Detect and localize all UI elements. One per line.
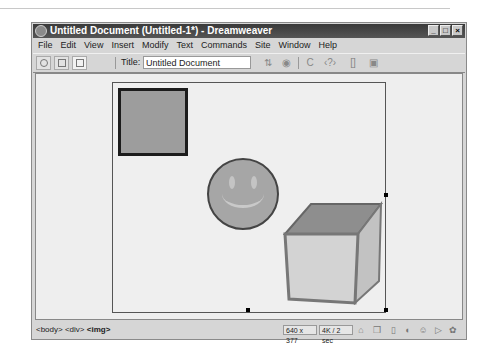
square-image[interactable] — [118, 88, 188, 156]
history-icon[interactable]: ▷ — [433, 325, 443, 335]
menu-edit[interactable]: Edit — [57, 39, 81, 52]
menu-help[interactable]: Help — [314, 39, 341, 52]
document-toolbar: Title: ⇅ ◉ C ‹?› [] ▣ — [33, 53, 465, 73]
view-options-icon[interactable]: ▣ — [366, 57, 380, 69]
assets-icon[interactable]: ❒ — [372, 325, 382, 335]
page-divider — [0, 8, 450, 9]
html-styles-icon[interactable]: ▯ — [388, 325, 398, 335]
split-view-button[interactable] — [54, 56, 69, 70]
resize-handle-corner[interactable] — [384, 308, 388, 312]
resize-handle-bottom[interactable] — [246, 308, 250, 312]
menu-commands[interactable]: Commands — [197, 39, 251, 52]
toolbar-separator — [115, 57, 116, 69]
code-view-icon — [40, 59, 48, 67]
site-icon[interactable]: ⌂ — [356, 325, 366, 335]
tag-div[interactable]: <div> — [65, 325, 85, 334]
refresh-icon[interactable]: C — [303, 57, 317, 69]
tag-img[interactable]: <img> — [87, 325, 111, 334]
document-title-input[interactable] — [143, 56, 251, 69]
toolbar-separator — [298, 57, 299, 69]
reference-icon[interactable]: [] — [346, 57, 360, 69]
menu-text[interactable]: Text — [172, 39, 197, 52]
title-label: Title: — [121, 57, 140, 67]
behaviors-icon[interactable]: ☺ — [418, 325, 428, 335]
dreamweaver-window: Untitled Document (Untitled-1*) - Dreamw… — [31, 22, 467, 340]
menu-view[interactable]: View — [80, 39, 107, 52]
status-bar: <body> <div> <img> 640 x 377 4K / 2 sec … — [33, 322, 465, 338]
window-size-dropdown[interactable]: 640 x 377 — [283, 325, 317, 335]
tag-selector: <body> <div> <img> — [36, 322, 110, 338]
code-inspector-icon[interactable]: ✿ — [448, 325, 458, 335]
menu-bar: File Edit View Insert Modify Text Comman… — [34, 39, 341, 52]
document-design-area[interactable] — [35, 73, 463, 320]
close-button[interactable]: × — [452, 25, 463, 36]
menu-modify[interactable]: Modify — [138, 39, 173, 52]
tag-body[interactable]: <body> — [36, 325, 63, 334]
resize-handle-right[interactable] — [384, 193, 388, 197]
download-stats: 4K / 2 sec — [319, 325, 353, 335]
code-view-button[interactable] — [36, 56, 51, 70]
design-view-icon — [76, 59, 84, 67]
design-view-button[interactable] — [72, 56, 87, 70]
file-management-icon[interactable]: ⇅ — [261, 57, 275, 69]
window-title: Untitled Document (Untitled-1*) - Dreamw… — [50, 24, 272, 38]
menu-site[interactable]: Site — [251, 39, 275, 52]
minimize-button[interactable]: _ — [428, 25, 439, 36]
smiley-mouth — [222, 180, 264, 208]
selected-image-layer[interactable] — [112, 82, 386, 313]
split-view-icon — [58, 59, 66, 67]
title-bar[interactable]: Untitled Document (Untitled-1*) - Dreamw… — [33, 24, 465, 38]
menu-file[interactable]: File — [34, 39, 57, 52]
maximize-button[interactable]: □ — [440, 25, 451, 36]
preview-browser-icon[interactable]: ◉ — [279, 57, 293, 69]
menu-insert[interactable]: Insert — [107, 39, 138, 52]
menu-window[interactable]: Window — [274, 39, 314, 52]
smiley-face-image[interactable] — [207, 158, 279, 230]
cube-image[interactable] — [283, 201, 383, 306]
css-styles-icon[interactable]: ◐ — [403, 325, 413, 335]
code-navigation-icon[interactable]: ‹?› — [323, 57, 337, 69]
dreamweaver-app-icon[interactable] — [35, 25, 47, 37]
